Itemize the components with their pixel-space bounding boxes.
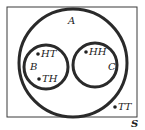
element-dot-tt (113, 105, 117, 109)
set-a-label: A (67, 15, 75, 26)
universe-label: S (131, 118, 138, 129)
set-c-label: C (108, 61, 116, 72)
venn-diagram: A B C HT TH HH TT S (0, 0, 145, 130)
element-label-th: TH (42, 73, 58, 84)
element-dot-th (37, 77, 41, 81)
element-dot-hh (84, 50, 88, 54)
element-label-ht: HT (40, 48, 58, 59)
set-b-label: B (29, 61, 37, 72)
element-label-tt: TT (118, 101, 133, 112)
element-dot-ht (36, 52, 40, 56)
element-label-hh: HH (88, 46, 107, 57)
